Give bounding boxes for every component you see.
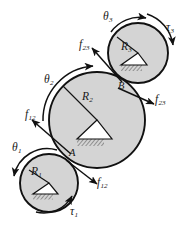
disk-2-body [49,72,145,168]
disk-2-radius-label: R2 [82,91,92,103]
f12-lower-right-label: f12 [97,177,107,189]
theta-3-label: θ3 [103,11,112,23]
disk-1-radius-label: R1 [31,166,41,178]
theta-1-label: θ1 [12,142,21,154]
disk-3-radius-label: R3 [121,41,131,53]
point-b-label: B [118,81,124,92]
f23-upper-left-label: f23 [79,39,89,51]
disk-3-body [108,23,168,83]
tau-3-label: τ3 [166,22,174,34]
theta-2-label: θ2 [44,74,53,86]
f12-upper-left-label: f12 [25,109,35,121]
tau-1-label: τ1 [70,206,78,218]
mechanics-diagram-figure: θ1 θ2 θ3 τ1 τ3 f12 f12 f23 f23 R1 R2 R3 … [0,0,191,230]
f23-lower-right-label: f23 [155,94,165,106]
point-a-label: A [69,148,75,159]
